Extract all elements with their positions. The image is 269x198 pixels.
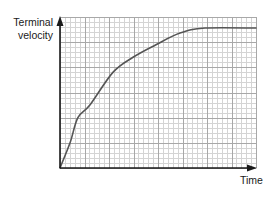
y-axis-label: Terminal velocity: [13, 16, 53, 42]
y-axis: [57, 16, 64, 168]
y-axis-label-line-1: Terminal: [13, 16, 53, 29]
x-axis-label: Time: [240, 174, 263, 187]
y-axis-label-line-2: velocity: [13, 29, 53, 42]
